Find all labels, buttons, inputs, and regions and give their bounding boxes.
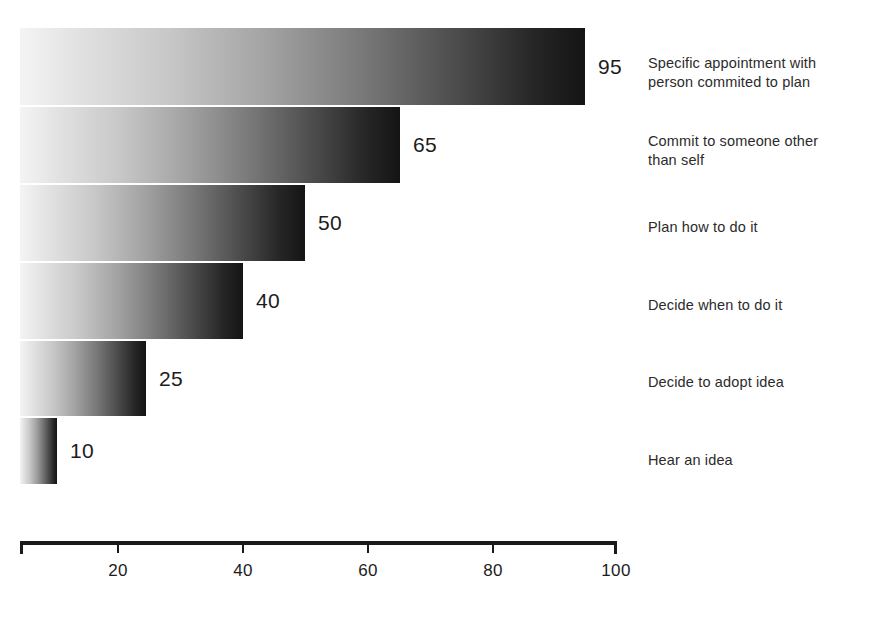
axis-tick-label: 20 — [108, 561, 128, 581]
category-label-line: than self — [648, 151, 873, 170]
bar-value-label: 40 — [256, 289, 280, 313]
category-label-commit-to-someone: Commit to someone other than self — [648, 132, 873, 170]
axis-line — [20, 541, 617, 545]
bar-row: 25 — [20, 341, 620, 416]
axis-tick — [242, 544, 244, 553]
bar-row: 10 — [20, 418, 620, 484]
plot-area: 95 65 50 40 25 10 — [20, 28, 620, 484]
axis-tick — [367, 544, 369, 553]
x-axis: 20 40 60 80 100 — [20, 541, 617, 601]
bar-commit-to-someone — [20, 107, 400, 183]
category-label-line: Decide when to do it — [648, 296, 873, 315]
bar-plan-how — [20, 185, 305, 261]
bar-row: 40 — [20, 263, 620, 339]
bar-value-label: 50 — [318, 211, 342, 235]
category-label-line: person commited to plan — [648, 73, 873, 92]
bar-value-label: 10 — [70, 439, 94, 463]
category-label-decide-adopt: Decide to adopt idea — [648, 373, 873, 392]
category-label-line: Specific appointment with — [648, 54, 873, 73]
bar-value-label: 65 — [413, 133, 437, 157]
axis-tick-label: 100 — [601, 561, 631, 581]
bar-row: 50 — [20, 185, 620, 261]
axis-tick — [614, 544, 616, 553]
category-labels: Specific appointment with person commite… — [648, 28, 878, 484]
bar-row: 65 — [20, 107, 620, 183]
axis-tick-label: 80 — [483, 561, 503, 581]
category-label-decide-when: Decide when to do it — [648, 296, 873, 315]
axis-tick — [492, 544, 494, 553]
bar-row: 95 — [20, 28, 620, 105]
bar-chart: 95 65 50 40 25 10 Specific appointment w… — [0, 0, 887, 620]
category-label-hear-idea: Hear an idea — [648, 451, 873, 470]
category-label-line: Plan how to do it — [648, 218, 873, 237]
bar-hear-idea — [20, 418, 57, 484]
axis-tick-label: 60 — [358, 561, 378, 581]
category-label-line: Decide to adopt idea — [648, 373, 873, 392]
category-label-specific-appointment: Specific appointment with person commite… — [648, 54, 873, 92]
category-label-plan-how: Plan how to do it — [648, 218, 873, 237]
bar-specific-appointment — [20, 28, 585, 105]
axis-tick — [117, 544, 119, 553]
bar-decide-adopt — [20, 341, 146, 416]
axis-tick-label: 40 — [233, 561, 253, 581]
category-label-line: Hear an idea — [648, 451, 873, 470]
axis-start-cap — [20, 541, 23, 554]
bar-value-label: 95 — [598, 55, 622, 79]
bar-decide-when — [20, 263, 243, 339]
category-label-line: Commit to someone other — [648, 132, 873, 151]
bar-value-label: 25 — [159, 367, 183, 391]
